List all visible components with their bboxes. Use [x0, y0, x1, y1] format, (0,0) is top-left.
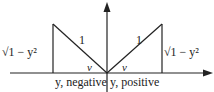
right-angle-label: v — [122, 61, 127, 73]
axis-label-positive: y, positive — [110, 75, 159, 89]
right-hypotenuse-label: 1 — [136, 33, 142, 47]
right-triangle — [107, 24, 162, 73]
right-side-label: √1 − y² — [164, 45, 199, 59]
left-triangle — [53, 24, 107, 73]
axis-label-negative: y, negative — [55, 75, 107, 89]
vertical-axis-arrow-icon — [104, 2, 111, 12]
triangle-diagram: √1 − y² 1 v √1 − y² 1 v y, negative y, p… — [0, 0, 214, 92]
left-angle-label: v — [87, 61, 92, 73]
right-triangle-hypotenuse — [107, 24, 162, 73]
left-triangle-hypotenuse — [53, 24, 107, 73]
left-side-label: √1 − y² — [2, 45, 37, 59]
left-hypotenuse-label: 1 — [79, 33, 85, 47]
horizontal-axis-arrow-icon — [203, 70, 213, 77]
